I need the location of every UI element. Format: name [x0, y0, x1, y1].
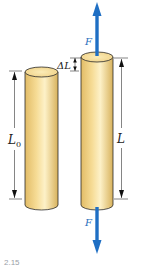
- force-arrow-down: [93, 207, 102, 254]
- stretched-length-dimension: [114, 58, 128, 199]
- stretched-length-label: L: [116, 132, 125, 146]
- original-rod: [25, 67, 58, 210]
- arrowhead-down-icon: [119, 190, 124, 198]
- arrowhead-up-icon: [119, 59, 124, 67]
- arrowhead-up-icon: [93, 2, 102, 16]
- tensile-stress-diagram: L0 L ΔL F F: [0, 0, 141, 268]
- delta-length-dimension: [70, 58, 82, 71]
- force-arrow-up: [93, 2, 102, 56]
- stretched-rod: [81, 52, 113, 210]
- arrowhead-down-icon: [73, 67, 77, 72]
- arrowhead-down-icon: [93, 240, 102, 254]
- figure-caption: 2.15: [4, 258, 20, 267]
- arrowhead-up-icon: [12, 72, 17, 80]
- arrowhead-up-icon: [73, 58, 77, 63]
- delta-length-label: ΔL: [56, 60, 71, 71]
- original-length-label: L0: [7, 133, 21, 149]
- arrowhead-down-icon: [12, 190, 17, 198]
- force-bottom-label: F: [84, 217, 93, 228]
- force-top-label: F: [84, 36, 93, 47]
